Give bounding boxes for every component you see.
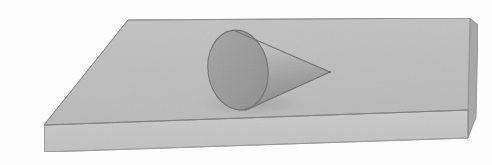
cone-apex-point	[329, 71, 331, 73]
cone-on-slab-illustration	[0, 0, 492, 165]
figure-container: sum one bez pop-s	[0, 0, 492, 165]
